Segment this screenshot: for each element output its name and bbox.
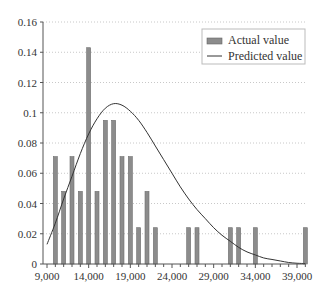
- legend-bar-swatch-icon: [207, 38, 222, 44]
- legend: Actual value Predicted value: [202, 29, 305, 64]
- x-tick-label: 9,000: [35, 270, 60, 282]
- x-tick-label: 19,000: [115, 270, 146, 282]
- x-axis-labels: 9,00014,00019,00024,00029,00034,00039,00…: [35, 270, 313, 282]
- bar: [253, 228, 257, 264]
- legend-label-actual: Actual value: [228, 33, 289, 47]
- x-tick-label: 29,000: [199, 270, 230, 282]
- bar: [228, 228, 232, 264]
- chart: 00.020.040.060.080.10.120.140.16 9,00014…: [0, 0, 319, 297]
- y-tick-label: 0.12: [18, 77, 37, 89]
- bar: [87, 48, 91, 264]
- bar: [53, 157, 57, 264]
- bar: [112, 120, 116, 264]
- bar: [120, 157, 124, 264]
- bar: [187, 228, 191, 264]
- bar: [145, 191, 149, 264]
- y-tick-label: 0.14: [18, 46, 38, 58]
- y-tick-label: 0.02: [18, 228, 37, 240]
- bar: [303, 228, 307, 264]
- y-tick-label: 0.1: [23, 107, 37, 119]
- bar-series-actual: [53, 48, 307, 264]
- line-series-predicted: [47, 104, 305, 264]
- bar: [195, 228, 199, 264]
- y-tick-label: 0.08: [18, 137, 38, 149]
- y-tick-label: 0: [32, 258, 38, 270]
- y-tick-label: 0.06: [18, 167, 38, 179]
- bar: [137, 228, 141, 264]
- bar: [153, 228, 157, 264]
- y-tick-label: 0.16: [18, 16, 38, 28]
- bar: [78, 191, 82, 264]
- bar: [103, 120, 107, 264]
- y-axis-labels: 00.020.040.060.080.10.120.140.16: [18, 16, 38, 270]
- bar: [95, 191, 99, 264]
- x-tick-label: 34,000: [240, 270, 271, 282]
- legend-label-predicted: Predicted value: [228, 49, 302, 63]
- x-tick-label: 24,000: [157, 270, 188, 282]
- x-tick-label: 39,000: [282, 270, 313, 282]
- y-tick-label: 0.04: [18, 198, 38, 210]
- bar: [128, 157, 132, 264]
- x-tick-label: 14,000: [74, 270, 105, 282]
